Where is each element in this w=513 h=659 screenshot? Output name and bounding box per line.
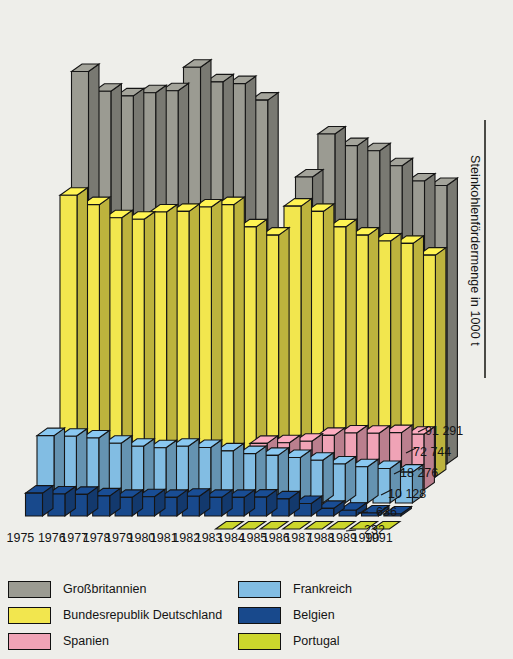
year-label-1991: 1991 [365,531,393,545]
legend-label: Bundesrepublik Deutschland [63,608,222,622]
end-value-0: 91 291 [425,424,463,438]
legend-swatch-right-0 [238,581,281,598]
legend: GroßbritannienBundesrepublik Deutschland… [0,570,513,659]
end-value-2: 18 276 [400,466,438,480]
legend-swatch-left-0 [8,581,51,598]
end-value-4: 636 [376,505,397,519]
end-value-1: 72 744 [413,445,451,459]
legend-label: Belgien [293,608,335,622]
legend-label: Portugal [293,634,340,648]
legend-label: Frankreich [293,582,352,596]
legend-column-right: FrankreichBelgienPortugal [238,576,352,654]
end-value-3: 10 128 [388,487,426,501]
end-value-labels: 91 29172 74418 27610 128636232 [0,0,513,570]
legend-swatch-right-2 [238,633,281,650]
legend-item: Großbritannien [8,576,222,602]
legend-item: Belgien [238,602,352,628]
coal-production-chart: 91 29172 74418 27610 128636232 197519761… [0,0,513,659]
legend-swatch-right-1 [238,607,281,624]
legend-column-left: GroßbritannienBundesrepublik Deutschland… [8,576,222,654]
legend-label: Großbritannien [63,582,146,596]
axis-rule [484,120,486,378]
year-label-1975: 1975 [7,531,35,545]
legend-item: Frankreich [238,576,352,602]
legend-item: Bundesrepublik Deutschland [8,602,222,628]
legend-swatch-left-2 [8,633,51,650]
legend-label: Spanien [63,634,109,648]
legend-item: Spanien [8,628,222,654]
year-axis: 1975197619771978197919801981198219831984… [0,531,513,551]
legend-item: Portugal [238,628,352,654]
axis-title: Steinkohlenfördermenge in 1000 t [466,155,482,375]
legend-swatch-left-1 [8,607,51,624]
